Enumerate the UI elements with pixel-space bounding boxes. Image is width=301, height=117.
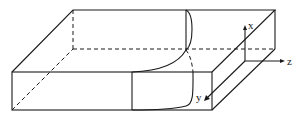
z-axis-label: z (287, 55, 292, 67)
box-outline (12, 10, 275, 110)
hidden-edges (12, 10, 275, 110)
axis-triad: x z y (196, 19, 292, 103)
x-axis-label: x (248, 19, 254, 31)
y-axis-label: y (196, 91, 202, 103)
slab-diagram: x z y (0, 0, 301, 117)
curved-profile (132, 10, 193, 110)
